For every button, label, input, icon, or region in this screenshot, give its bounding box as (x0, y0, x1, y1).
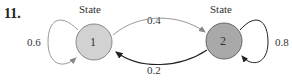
state-2-id: 2 (220, 34, 226, 49)
self-loop-2-arrow (240, 20, 268, 63)
markov-diagram (0, 0, 292, 81)
transition-1-to-2-arrow (113, 18, 205, 35)
transition-2-to-1-arrow (116, 50, 207, 65)
state-1-id: 1 (90, 35, 96, 50)
self-loop-1-arrow (48, 20, 78, 64)
